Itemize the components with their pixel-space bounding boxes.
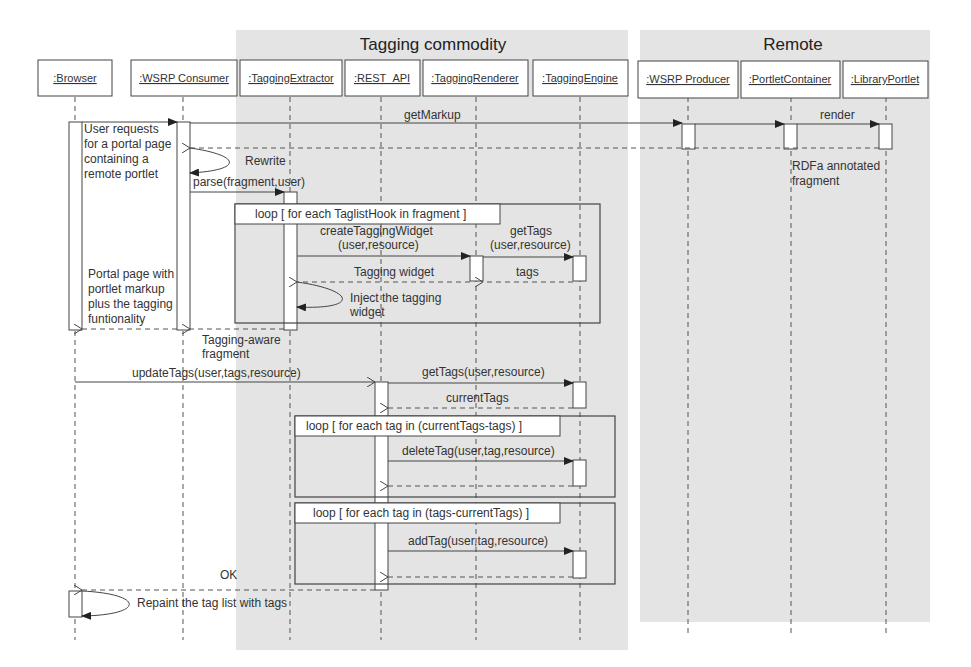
activation-rest-api bbox=[375, 382, 388, 590]
activation-tagging-renderer bbox=[470, 256, 483, 281]
message-label-tagging-widget: Tagging widget bbox=[354, 265, 435, 279]
self-call-rewrite bbox=[190, 148, 229, 173]
loop-guard-add-tags: loop [ for each tag in (tags-currentTags… bbox=[313, 506, 529, 520]
lifeline-header-wsrp-producer: :WSRP Producer bbox=[638, 61, 738, 98]
message-label-delete-tag: deleteTag(user,tag,resource) bbox=[402, 444, 555, 458]
activation-portlet-container bbox=[784, 124, 797, 149]
message-label-add-tag: addTag(user,tag,resource) bbox=[408, 534, 548, 548]
lifeline-header-wsrp-consumer: :WSRP Consumer bbox=[131, 60, 237, 96]
activation-browser-main bbox=[69, 122, 82, 330]
region-title-remote: Remote bbox=[763, 35, 823, 54]
lifeline-header-browser: :Browser bbox=[38, 60, 112, 96]
message-label-ok: OK bbox=[220, 568, 237, 582]
message-label-render: render bbox=[820, 108, 855, 122]
activation-wsrp-consumer bbox=[177, 122, 190, 330]
lifeline-header-portlet-container: :PortletContainer bbox=[741, 61, 840, 98]
message-label-update-tags: updateTags(user,tags,resource) bbox=[132, 366, 301, 380]
svg-text::WSRP Consumer: :WSRP Consumer bbox=[139, 72, 229, 84]
message-label-getmarkup: getMarkup bbox=[404, 108, 461, 122]
loop-guard-delete-tags: loop [ for each tag in (currentTags-tags… bbox=[306, 419, 522, 433]
message-label-rewrite: Rewrite bbox=[245, 154, 286, 168]
svg-text::Browser: :Browser bbox=[53, 72, 97, 84]
activation-wsrp-producer bbox=[682, 124, 695, 149]
activation-browser-repaint bbox=[69, 591, 82, 617]
lifeline-header-library-portlet: :LibraryPortlet bbox=[843, 61, 928, 98]
activation-tagging-engine-2 bbox=[573, 382, 586, 408]
lifeline-header-tagging-renderer: :TaggingRenderer bbox=[423, 60, 528, 96]
svg-text::WSRP Producer: :WSRP Producer bbox=[646, 73, 730, 85]
svg-text::TaggingEngine: :TaggingEngine bbox=[542, 72, 618, 84]
message-label-current-tags: currentTags bbox=[446, 391, 509, 405]
lifeline-header-tagging-extractor: :TaggingExtractor bbox=[240, 60, 342, 96]
lifeline-header-rest-api: :REST_API bbox=[345, 60, 420, 96]
message-label-parse: parse(fragment,user) bbox=[193, 175, 305, 189]
activation-tagging-engine-1 bbox=[573, 256, 586, 281]
svg-text::TaggingRenderer: :TaggingRenderer bbox=[431, 72, 519, 84]
message-label-create-tagging-widget: createTaggingWidget (user,resource) bbox=[320, 224, 436, 252]
activation-tagging-engine-4 bbox=[573, 551, 586, 578]
loop-guard-taglist-hook: loop [ for each TaglistHook in fragment … bbox=[255, 207, 466, 221]
note-portal-page: Portal page with portlet markup plus the… bbox=[88, 267, 177, 326]
message-label-tags: tags bbox=[516, 265, 539, 279]
message-label-gettags: getTags(user,resource) bbox=[422, 365, 545, 379]
activation-library-portlet bbox=[879, 124, 892, 149]
self-call-repaint bbox=[82, 591, 129, 616]
svg-text::REST_API: :REST_API bbox=[354, 72, 410, 84]
message-label-repaint: Repaint the tag list with tags bbox=[137, 596, 287, 610]
lifeline-header-tagging-engine: :TaggingEngine bbox=[533, 60, 628, 96]
activation-tagging-engine-3 bbox=[573, 460, 586, 486]
svg-text::PortletContainer: :PortletContainer bbox=[749, 73, 832, 85]
svg-text::LibraryPortlet: :LibraryPortlet bbox=[851, 73, 919, 85]
svg-text::TaggingExtractor: :TaggingExtractor bbox=[248, 72, 334, 84]
note-user-request: User requests for a portal page containi… bbox=[84, 122, 175, 181]
region-title-tagging-commodity: Tagging commodity bbox=[360, 35, 507, 54]
